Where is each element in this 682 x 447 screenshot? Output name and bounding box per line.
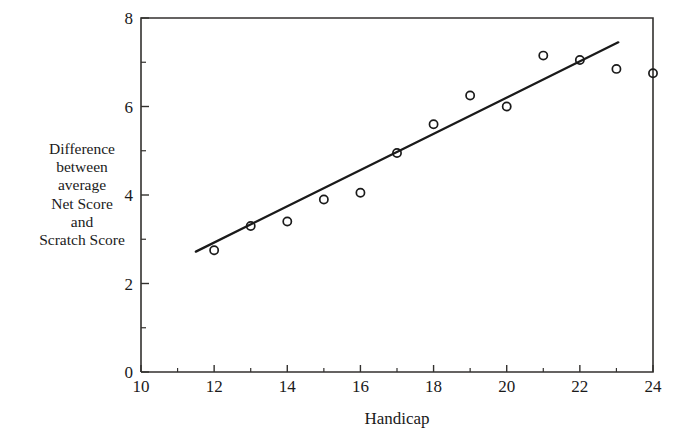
- data-point: [210, 246, 218, 254]
- x-tick-label: 22: [571, 377, 588, 396]
- x-tick-label: 18: [425, 377, 442, 396]
- y-axis-tick-labels: 02468: [125, 9, 134, 382]
- data-point: [503, 102, 511, 110]
- data-point: [356, 189, 364, 197]
- x-axis-tick-labels: 1012141618202224: [133, 377, 663, 396]
- data-point: [612, 65, 620, 73]
- y-tick-label: 6: [125, 98, 134, 117]
- plot-canvas: 1012141618202224 02468 Handicap: [0, 0, 682, 447]
- data-point-series: [210, 52, 657, 255]
- y-tick-label: 0: [125, 363, 134, 382]
- x-tick-label: 24: [645, 377, 663, 396]
- scatter-plot-figure: Difference between average Net Score and…: [0, 0, 682, 447]
- y-tick-label: 2: [125, 275, 134, 294]
- x-tick-label: 16: [352, 377, 369, 396]
- x-tick-label: 20: [498, 377, 515, 396]
- x-tick-label: 14: [279, 377, 297, 396]
- data-point: [539, 52, 547, 60]
- data-point: [320, 195, 328, 203]
- axis-frame: [141, 18, 653, 372]
- y-axis-major-ticks: [141, 18, 149, 372]
- data-point: [283, 217, 291, 225]
- data-point: [466, 91, 474, 99]
- x-tick-label: 10: [133, 377, 150, 396]
- x-tick-label: 12: [206, 377, 223, 396]
- y-tick-label: 4: [125, 186, 134, 205]
- x-axis-title: Handicap: [364, 409, 429, 428]
- y-tick-label: 8: [125, 9, 134, 28]
- regression-line: [196, 42, 618, 251]
- data-point: [429, 120, 437, 128]
